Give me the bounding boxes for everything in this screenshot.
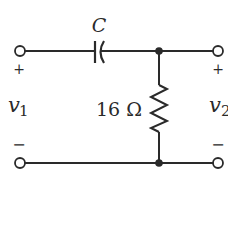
svg-text:1: 1 [19, 102, 29, 120]
input-plus-sign: + [13, 61, 25, 77]
output-plus-sign: + [212, 61, 224, 77]
circuit-diagram: C 16 Ω + − + − v 1 v 2 [0, 0, 228, 236]
input-minus-sign: − [12, 135, 25, 154]
capacitor-label: C [92, 14, 107, 36]
input-terminal-positive [15, 46, 25, 56]
junction-node-bottom [155, 159, 163, 167]
output-terminal-positive [213, 46, 223, 56]
junction-node-top [155, 47, 163, 55]
resistor-label: 16 Ω [96, 98, 142, 120]
svg-text:2: 2 [221, 102, 228, 120]
input-voltage-label: v 1 [8, 93, 29, 120]
output-minus-sign: − [211, 135, 224, 154]
output-voltage-label: v 2 [209, 93, 228, 120]
resistor-symbol [151, 51, 167, 163]
input-terminal-negative [15, 158, 25, 168]
output-terminal-negative [213, 158, 223, 168]
svg-text:v: v [209, 93, 221, 117]
